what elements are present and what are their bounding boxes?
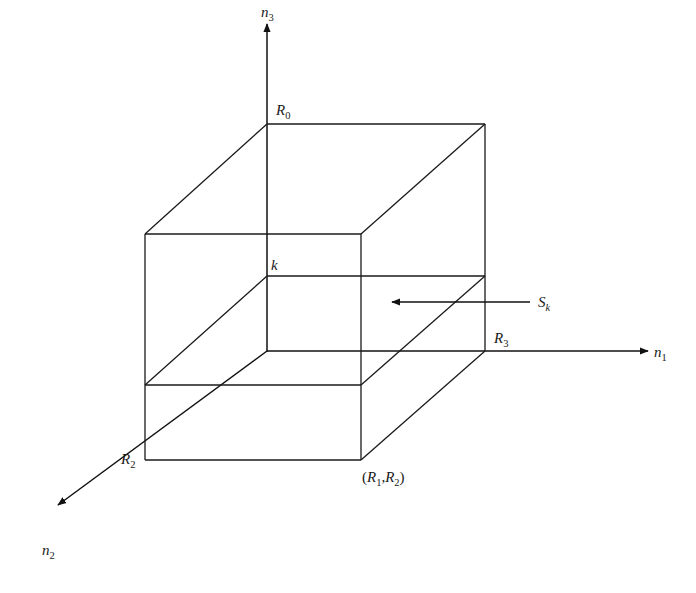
r1-r2-label: (R1,R2) [362,469,405,488]
n2-axis [58,351,267,505]
sk-label: Sk [538,294,551,313]
k-label: k [271,257,278,273]
cube-front-face [145,234,361,460]
cube-back-face [267,124,485,351]
r2-label: R2 [120,451,135,470]
n1-label: n1 [654,344,667,363]
cube-top-face [145,124,485,234]
r0-label: R0 [275,102,290,121]
cube-diagram: n3 n1 n2 R0 k R3 R2 (R1,R2) Sk [0,0,696,593]
n2-label: n2 [42,542,55,561]
r3-label: R3 [493,330,508,349]
n3-label: n3 [261,4,274,23]
cube-bottom-edge [361,351,485,460]
slice-plane-k [145,276,485,385]
